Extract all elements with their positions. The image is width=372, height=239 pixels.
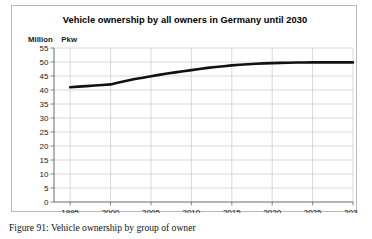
grid-layer — [54, 48, 353, 202]
svg-text:45: 45 — [40, 72, 49, 81]
svg-text:15: 15 — [40, 156, 49, 165]
svg-text:2005: 2005 — [142, 208, 160, 213]
svg-text:30: 30 — [40, 114, 49, 123]
svg-text:55: 55 — [40, 44, 49, 53]
svg-text:50: 50 — [40, 58, 49, 67]
svg-text:20: 20 — [40, 142, 49, 151]
ticks-layer — [51, 48, 354, 206]
svg-text:5: 5 — [44, 184, 49, 193]
figure-container: Vehicle ownership by all owners in Germa… — [0, 0, 372, 239]
svg-text:40: 40 — [40, 86, 49, 95]
x-tick-labels: 19952000200520102015202020252030 — [61, 208, 358, 213]
svg-text:25: 25 — [40, 128, 49, 137]
svg-text:2015: 2015 — [223, 208, 241, 213]
y-tick-labels: 0510152025303540455055 — [40, 44, 49, 207]
svg-text:0: 0 — [44, 198, 49, 207]
svg-text:2010: 2010 — [182, 208, 200, 213]
svg-text:2000: 2000 — [102, 208, 120, 213]
svg-text:2020: 2020 — [263, 208, 281, 213]
data-series-layer — [70, 62, 353, 87]
chart-frame: Vehicle ownership by all owners in Germa… — [11, 5, 357, 212]
axis-lines — [54, 48, 353, 202]
svg-text:2025: 2025 — [304, 208, 322, 213]
svg-text:35: 35 — [40, 100, 49, 109]
figure-caption: Figure 91: Vehicle ownership by group of… — [9, 222, 196, 233]
svg-text:2030: 2030 — [344, 208, 358, 213]
svg-text:1995: 1995 — [61, 208, 79, 213]
chart-plot: 0510152025303540455055 19952000200520102… — [12, 6, 358, 213]
svg-text:10: 10 — [40, 170, 49, 179]
